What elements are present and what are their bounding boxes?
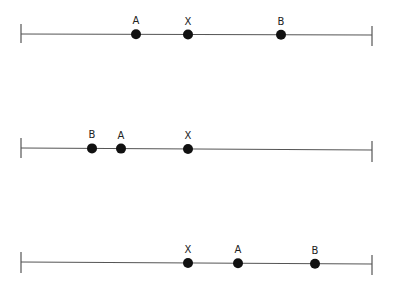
point-b: B bbox=[87, 129, 97, 153]
point-label: X bbox=[185, 130, 192, 141]
point-x: X bbox=[183, 16, 193, 40]
point-dot bbox=[183, 30, 193, 40]
point-x: X bbox=[183, 130, 193, 154]
point-b: B bbox=[276, 16, 286, 40]
number-line-1: AXB bbox=[21, 15, 372, 46]
point-a: A bbox=[116, 130, 126, 154]
point-dot bbox=[116, 144, 126, 154]
point-a: A bbox=[131, 15, 141, 39]
number-line-2: BAX bbox=[21, 129, 372, 162]
axis-line bbox=[21, 148, 372, 150]
point-dot bbox=[183, 258, 193, 268]
point-a: A bbox=[233, 244, 243, 268]
number-line-diagram: AXBBAXXAB bbox=[0, 0, 393, 293]
point-dot bbox=[131, 29, 141, 39]
point-label: B bbox=[278, 16, 285, 27]
point-dot bbox=[87, 143, 97, 153]
point-dot bbox=[276, 30, 286, 40]
axis-line bbox=[21, 34, 372, 35]
point-label: A bbox=[235, 244, 242, 255]
point-dot bbox=[310, 259, 320, 269]
point-label: X bbox=[185, 16, 192, 27]
point-x: X bbox=[183, 244, 193, 268]
point-dot bbox=[183, 144, 193, 154]
point-label: A bbox=[118, 130, 125, 141]
point-label: B bbox=[89, 129, 96, 140]
point-label: X bbox=[185, 244, 192, 255]
point-label: B bbox=[312, 245, 319, 256]
number-line-3: XAB bbox=[21, 244, 372, 275]
point-dot bbox=[233, 258, 243, 268]
point-b: B bbox=[310, 245, 320, 269]
point-label: A bbox=[133, 15, 140, 26]
